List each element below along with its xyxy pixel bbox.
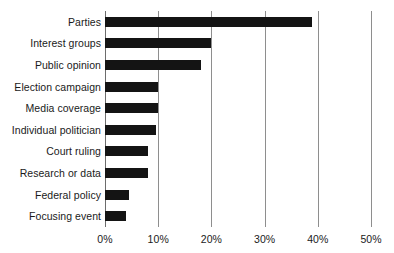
bar: [105, 60, 201, 70]
bar-row: [105, 17, 371, 27]
value-axis-ticks: 0%10%20%30%40%50%: [105, 227, 371, 253]
bar-row: [105, 146, 371, 156]
category-label: Public opinion: [0, 59, 101, 71]
gridline-50%: [371, 11, 372, 227]
tick-label: 20%: [201, 233, 222, 245]
bar: [105, 190, 129, 200]
category-label: Media coverage: [0, 102, 101, 114]
bars-layer: [105, 11, 371, 227]
bar: [105, 146, 148, 156]
tick-label: 0%: [97, 233, 112, 245]
bar: [105, 38, 211, 48]
bar-row: [105, 125, 371, 135]
bar-chart: PartiesInterest groupsPublic opinionElec…: [0, 0, 394, 253]
bar: [105, 211, 126, 221]
bar-row: [105, 211, 371, 221]
bar: [105, 168, 148, 178]
category-label: Election campaign: [0, 81, 101, 93]
category-label: Individual politician: [0, 124, 101, 136]
category-label: Court ruling: [0, 145, 101, 157]
category-label: Federal policy: [0, 189, 101, 201]
tick-label: 10%: [148, 233, 169, 245]
bar-row: [105, 82, 371, 92]
tick-label: 30%: [254, 233, 275, 245]
category-label: Research or data: [0, 167, 101, 179]
tick-label: 40%: [307, 233, 328, 245]
category-label: Parties: [0, 16, 101, 28]
bar: [105, 17, 312, 27]
category-label: Focusing event: [0, 210, 101, 222]
tick-label: 50%: [360, 233, 381, 245]
bar: [105, 82, 158, 92]
bar-row: [105, 190, 371, 200]
bar-row: [105, 103, 371, 113]
category-label: Interest groups: [0, 37, 101, 49]
category-axis-labels: PartiesInterest groupsPublic opinionElec…: [0, 11, 101, 227]
bar-row: [105, 38, 371, 48]
bar: [105, 103, 158, 113]
bar: [105, 125, 156, 135]
plot-area: [105, 11, 371, 227]
bar-row: [105, 168, 371, 178]
bar-row: [105, 60, 371, 70]
